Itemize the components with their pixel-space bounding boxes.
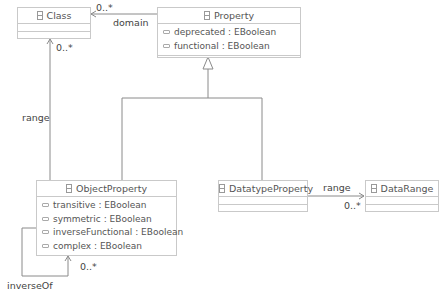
class-box-datarange[interactable]: DataRange [365, 180, 439, 212]
operations-compartment [219, 205, 307, 212]
class-box-objectproperty[interactable]: ObjectProperty transitive : EBoolean sym… [36, 180, 177, 256]
attribute-icon [42, 244, 49, 248]
datatype-range-multiplicity: 0..* [344, 200, 361, 211]
generalization-triangle-icon [203, 57, 213, 69]
operations-compartment [18, 32, 90, 39]
class-box-property[interactable]: Property deprecated : EBoolean functiona… [157, 7, 301, 58]
attributes-compartment [366, 197, 438, 205]
attribute-item[interactable]: inverseFunctional : EBoolean [37, 226, 176, 240]
attribute-item[interactable]: symmetric : EBoolean [37, 213, 176, 227]
operations-compartment [366, 205, 438, 212]
attributes-compartment: transitive : EBoolean symmetric : EBoole… [37, 197, 176, 256]
class-name: ObjectProperty [76, 183, 147, 194]
class-icon [204, 11, 210, 20]
attribute-icon [42, 203, 49, 207]
attribute-icon [163, 44, 170, 48]
domain-role-label: domain [113, 17, 149, 28]
attribute-item[interactable]: deprecated : EBoolean [158, 26, 300, 40]
class-icon [66, 184, 72, 193]
attribute-item[interactable]: functional : EBoolean [158, 40, 300, 54]
class-header: Class [18, 8, 90, 24]
domain-multiplicity: 0..* [96, 2, 113, 13]
class-header: Property [158, 8, 300, 24]
class-box-class[interactable]: Class [17, 7, 91, 39]
class-name: DataRange [381, 183, 434, 194]
attribute-item[interactable]: transitive : EBoolean [37, 199, 176, 213]
class-header: DataRange [366, 181, 438, 197]
inverseof-role-label: inverseOf [7, 280, 53, 291]
datatype-range-role-label: range [323, 182, 351, 193]
inverseof-multiplicity: 0..* [80, 261, 97, 272]
class-name: DatatypeProperty [229, 183, 313, 194]
attributes-compartment [18, 24, 90, 32]
attributes-compartment: deprecated : EBoolean functional : EBool… [158, 24, 300, 56]
class-range-role-label: range [22, 112, 50, 123]
class-icon [37, 11, 43, 20]
attribute-icon [163, 30, 170, 34]
class-name: Class [47, 10, 72, 21]
class-name: Property [214, 10, 254, 21]
attributes-compartment [219, 197, 307, 205]
class-range-multiplicity: 0..* [56, 42, 73, 53]
attribute-item[interactable]: complex : EBoolean [37, 240, 176, 254]
attribute-icon [42, 230, 49, 234]
class-header: ObjectProperty [37, 181, 176, 197]
attribute-icon [42, 217, 49, 221]
class-icon [219, 184, 225, 193]
class-icon [371, 184, 377, 193]
class-header: DatatypeProperty [219, 181, 307, 197]
class-box-datatypeproperty[interactable]: DatatypeProperty [218, 180, 308, 212]
